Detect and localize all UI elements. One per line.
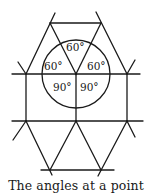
lower-left-tick [13, 121, 26, 140]
angle-label-lower-right: 90° [80, 81, 99, 93]
left-vertex-tick [18, 62, 26, 74]
angle-label-upper-left: 60° [44, 60, 63, 72]
lower-tri-edge-4 [98, 121, 127, 176]
figure-caption: The angles at a point [0, 178, 152, 193]
lower-tri-edge-2 [50, 121, 76, 170]
lower-tri-edge-3 [76, 121, 101, 170]
lower-tri-edge-1 [26, 121, 52, 175]
angle-label-top: 60° [66, 41, 85, 53]
angle-label-upper-right: 60° [87, 60, 106, 72]
central-point [75, 73, 77, 75]
lower-right-tick [127, 121, 135, 137]
right-vertex-tick [127, 60, 135, 74]
angle-label-lower-left: 90° [53, 81, 72, 93]
tessellation-diagram: 60° 60° 60° 90° 90° [0, 0, 152, 196]
